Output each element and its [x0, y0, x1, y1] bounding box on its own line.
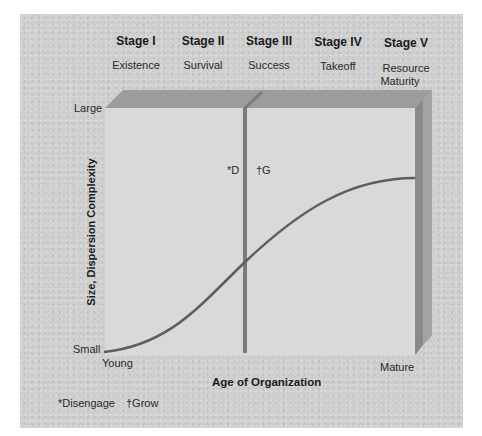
disengage-marker: *D	[227, 164, 239, 176]
stage-5-title: Stage V	[366, 36, 446, 50]
stage-5-name: Resource	[366, 62, 446, 75]
box-top-face	[105, 90, 432, 108]
box-right-back-edge	[423, 90, 432, 345]
stage-5-name-line2: Maturity	[360, 75, 440, 88]
stage-3-title: Stage III	[229, 34, 309, 48]
stage-3-name: Success	[229, 59, 309, 72]
y-axis-top-label: Large	[74, 102, 102, 114]
box-front-face	[105, 108, 415, 355]
footnote-disengage: *Disengage	[58, 397, 115, 409]
grow-marker: †G	[256, 164, 271, 176]
x-axis-left-label: Young	[102, 357, 133, 369]
x-axis-title: Age of Organization	[212, 376, 321, 388]
footnote-grow: †Grow	[126, 397, 158, 409]
y-axis-title: Size, Dispersion Complexity	[85, 132, 97, 332]
x-axis-right-label: Mature	[380, 361, 414, 373]
y-axis-bottom-label: Small	[73, 343, 101, 355]
